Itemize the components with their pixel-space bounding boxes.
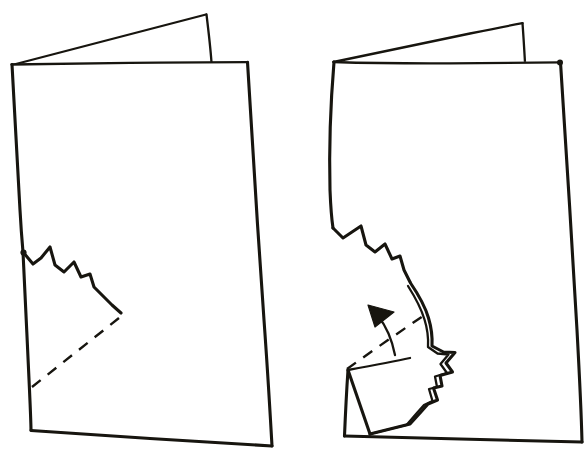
left-front-panel [11,62,272,446]
illustration-canvas [0,0,587,463]
figure-left [11,14,272,446]
right-front-left-edge [330,62,334,228]
right-front-panel [333,61,582,442]
right-fold-corner-mark [557,60,563,66]
left-tear-start-mark [20,249,26,255]
figure-right [330,23,582,442]
